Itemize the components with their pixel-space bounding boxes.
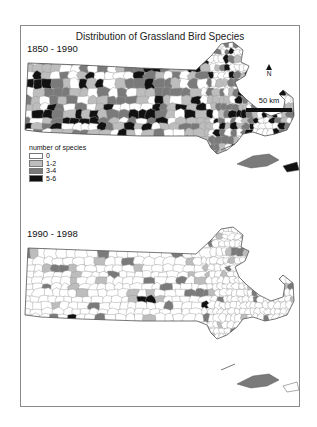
town-cell: [119, 143, 130, 154]
town-cell: [52, 233, 60, 243]
town-cell: [111, 224, 124, 236]
town-cell: [244, 240, 253, 247]
town-cell: [67, 334, 78, 344]
town-cell: [264, 333, 274, 341]
town-cell: [95, 327, 107, 338]
town-cell: [62, 39, 77, 51]
town-cell: [267, 87, 275, 96]
town-cell: [253, 271, 260, 279]
town-cell: [290, 327, 296, 335]
town-cell: [256, 78, 262, 87]
map-canvas: [21, 26, 301, 408]
town-cell: [113, 150, 126, 160]
town-cell: [147, 240, 162, 250]
town-cell: [290, 71, 297, 79]
town-cell: [34, 39, 45, 50]
town-cell: [153, 129, 165, 141]
town-cell: [158, 224, 171, 234]
legend-item-1-2: 1-2: [29, 160, 86, 168]
town-cell: [99, 39, 112, 51]
town-cell: [288, 48, 295, 56]
town-cell: [288, 233, 296, 241]
town-cell: [188, 327, 199, 337]
town-cell: [88, 333, 99, 343]
town-cell: [290, 123, 297, 131]
town-cell: [294, 272, 301, 278]
town-cell: [149, 224, 160, 235]
town-cell: [293, 247, 300, 257]
town-cell: [142, 314, 156, 325]
town-cell: [297, 48, 301, 55]
town-cell: [293, 283, 300, 290]
town-cell: [275, 284, 283, 289]
town-cell: [163, 333, 174, 343]
town-cell: [161, 327, 173, 338]
town-cell: [135, 240, 150, 250]
town-cell: [276, 144, 284, 152]
town-cell: [74, 322, 88, 332]
town-cell: [42, 224, 55, 236]
town-cell: [98, 55, 112, 66]
town-cell: [248, 71, 256, 79]
town-cell: [286, 64, 292, 71]
town-cell: [41, 79, 52, 90]
town-cell: [211, 38, 219, 48]
town-cell: [282, 327, 291, 334]
town-cell: [114, 240, 127, 250]
town-cell: [122, 321, 135, 331]
town-cell: [71, 130, 81, 140]
town-cell: [254, 136, 265, 145]
town-cell: [277, 334, 286, 341]
town-cell: [61, 224, 72, 234]
town-cell: [270, 48, 278, 54]
town-cell: [298, 283, 302, 290]
town-cell: [189, 240, 200, 250]
town-cell: [228, 334, 235, 342]
town-cell: [285, 276, 296, 284]
town-cell: [153, 151, 165, 160]
town-cell: [193, 224, 207, 235]
town-cell: [234, 144, 243, 152]
town-cell: [94, 257, 106, 266]
town-cell: [90, 150, 103, 159]
town-cell: [199, 39, 208, 51]
town-cell: [287, 78, 297, 86]
town-cell: [174, 150, 186, 160]
town-cell: [279, 150, 287, 157]
town-cell: [180, 240, 191, 248]
town-cell: [252, 48, 258, 56]
town-cell: [240, 144, 246, 151]
town-cell: [292, 117, 299, 124]
town-cell: [293, 135, 299, 144]
town-cell: [253, 89, 259, 96]
town-cell: [265, 282, 272, 291]
town-cell: [270, 40, 276, 49]
town-cell: [195, 144, 206, 154]
town-cell: [263, 272, 272, 279]
town-cell: [92, 49, 105, 57]
town-cell: [266, 289, 276, 297]
town-cell: [240, 271, 248, 278]
town-cell: [138, 49, 148, 58]
legend-item-3-4: 3-4: [29, 167, 86, 175]
town-cell: [276, 224, 284, 232]
town-cell: [288, 143, 295, 150]
town-cell: [260, 282, 267, 291]
town-cell: [139, 143, 152, 153]
town-cell: [245, 56, 252, 63]
town-cell: [159, 240, 172, 249]
town-cell: [124, 49, 134, 58]
town-cell: [259, 247, 266, 256]
town-cell: [77, 328, 86, 338]
town-cell: [171, 55, 181, 67]
legend: number of species 0 1-2 3-4 5-6: [29, 144, 86, 182]
town-cell: [296, 333, 301, 341]
town-cell: [239, 79, 249, 88]
town-cell: [79, 232, 92, 242]
town-cell: [134, 333, 145, 343]
town-cell: [21, 309, 31, 318]
legend-label-5-6: 5-6: [46, 175, 56, 182]
town-cell: [37, 49, 51, 57]
town-cell: [41, 333, 51, 344]
town-cell: [115, 314, 127, 326]
